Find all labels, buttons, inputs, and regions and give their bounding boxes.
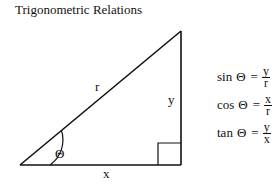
- function-name: sin: [217, 69, 232, 85]
- adjacent-label: x: [103, 167, 110, 180]
- cosine-equation: cos Θ = x r: [217, 92, 272, 118]
- function-name: tan: [217, 125, 233, 141]
- sine-equation: sin Θ = y r: [217, 64, 270, 90]
- right-angle-marker: [158, 143, 181, 165]
- angle-var: Θ: [236, 69, 245, 85]
- fraction: x r: [264, 94, 272, 117]
- tangent-equation: tan Θ = y x: [217, 120, 271, 146]
- hypotenuse-line: [20, 31, 181, 165]
- angle-var: Θ: [238, 97, 247, 113]
- opposite-label: y: [168, 93, 175, 106]
- angle-label: Θ: [55, 147, 64, 160]
- denominator: r: [264, 78, 268, 89]
- function-name: cos: [217, 97, 234, 113]
- angle-var: Θ: [237, 125, 246, 141]
- denominator: x: [264, 134, 270, 145]
- denominator: r: [266, 106, 270, 117]
- fraction: y x: [263, 122, 271, 145]
- equals-sign: =: [253, 97, 260, 113]
- equals-sign: =: [251, 69, 258, 85]
- fraction: y r: [262, 66, 270, 89]
- equals-sign: =: [251, 125, 258, 141]
- hypotenuse-label: r: [95, 80, 99, 93]
